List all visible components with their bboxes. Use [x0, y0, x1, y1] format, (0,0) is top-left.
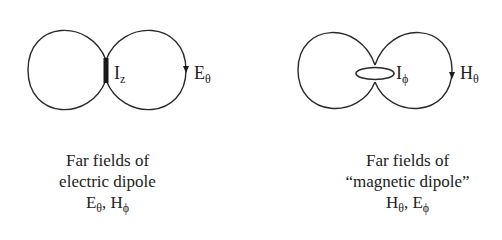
magnetic-dipole-pattern — [298, 33, 452, 109]
field-label: Eθ — [194, 63, 211, 87]
field-label: Hθ — [460, 63, 479, 87]
electric-dipole-element — [104, 58, 109, 83]
left-lobe — [298, 33, 375, 109]
field-direction-arrow — [183, 66, 189, 73]
left-lobe — [28, 30, 106, 109]
right-lobe — [375, 33, 452, 109]
current-loop — [356, 68, 394, 80]
electric-dipole-caption: Far fields of electric dipole Eθ, Hϕ — [20, 150, 195, 219]
magnetic-dipole-caption: Far fields of “magnetic dipole” Hθ, Eϕ — [325, 150, 490, 219]
source-current-label: Iϕ — [396, 63, 408, 87]
field-direction-arrow — [449, 72, 455, 79]
source-current-label: Iz — [114, 63, 125, 87]
